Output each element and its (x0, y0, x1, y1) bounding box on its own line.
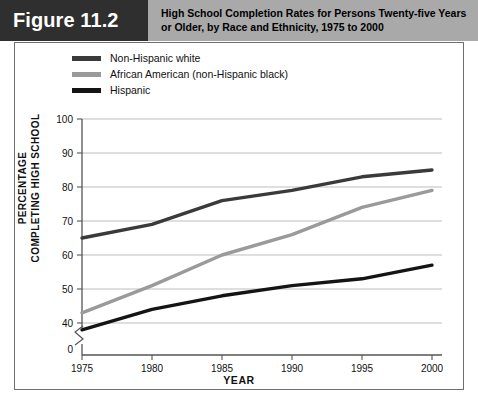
figure-title: High School Completion Rates for Persons… (148, 0, 478, 41)
figure-header: Figure 11.2 High School Completion Rates… (0, 0, 478, 41)
legend-swatch-icon (72, 56, 101, 61)
legend-item-hispanic: Hispanic (72, 82, 288, 98)
y-axis-title-line1: PERCENTAGE (16, 93, 29, 283)
legend-swatch-icon (72, 72, 101, 77)
y-axis-title: PERCENTAGE COMPLETING HIGH SCHOOL (16, 93, 42, 283)
legend-label: African American (non-Hispanic black) (110, 68, 288, 80)
legend-item-non-hispanic-white: Non-Hispanic white (72, 50, 288, 66)
legend-label: Non-Hispanic white (110, 52, 200, 64)
legend-swatch-icon (72, 88, 101, 93)
figure-number-tag: Figure 11.2 (0, 0, 148, 41)
x-axis-title: YEAR (0, 374, 478, 386)
figure-container: Figure 11.2 High School Completion Rates… (0, 0, 478, 403)
legend-item-african-american: African American (non-Hispanic black) (72, 66, 288, 82)
chart-legend: Non-Hispanic white African American (non… (72, 50, 288, 98)
y-axis-title-line2: COMPLETING HIGH SCHOOL (29, 93, 42, 283)
legend-label: Hispanic (110, 84, 150, 96)
